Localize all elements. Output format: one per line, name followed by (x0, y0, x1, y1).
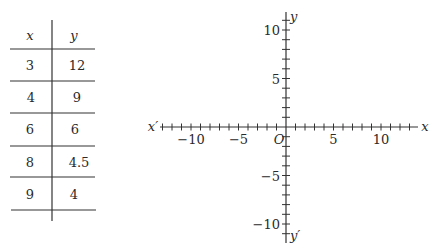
y-tick-label: 10 (263, 23, 280, 38)
x-tick-label: −5 (229, 132, 248, 147)
x-tick-label: 10 (373, 132, 390, 147)
x-axis-label: x (421, 119, 429, 134)
y-axis-label: y (289, 9, 298, 24)
coordinate-plane: −10−5510105−5−10Oxx′yy′ (0, 0, 433, 252)
x-tick-label: 5 (329, 132, 337, 147)
axes: −10−5510105−5−10Oxx′yy′ (0, 0, 433, 252)
y-tick-label: −10 (253, 217, 280, 232)
x-prime-label: x′ (148, 119, 158, 134)
y-tick-label: −5 (261, 169, 280, 184)
x-tick-label: −10 (177, 132, 204, 147)
origin-label: O (274, 132, 285, 147)
y-tick-label: 5 (272, 72, 280, 87)
y-prime-label: y′ (289, 228, 300, 243)
